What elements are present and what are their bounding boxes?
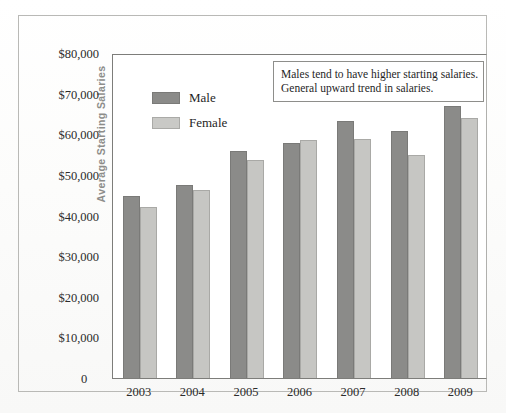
- y-axis-tick-label: $40,000: [37, 209, 99, 224]
- annotation-line-1: Males tend to have higher starting salar…: [281, 67, 476, 81]
- y-axis-tick-label: $60,000: [37, 128, 99, 143]
- x-axis-tick-label: 2003: [111, 385, 167, 400]
- bar-male[interactable]: [391, 131, 408, 378]
- legend-item-female[interactable]: Female: [152, 115, 227, 131]
- bar-female[interactable]: [354, 139, 371, 378]
- bar-female[interactable]: [461, 118, 478, 378]
- chart-page: Average Starting Salaries $10,000$20,000…: [0, 0, 506, 413]
- x-axis-tick-label: 2008: [379, 385, 435, 400]
- x-axis-tick-label: 2007: [325, 385, 381, 400]
- x-axis-tick-label: 2006: [272, 385, 328, 400]
- bar-male[interactable]: [444, 106, 461, 378]
- bar-female[interactable]: [300, 140, 317, 378]
- x-axis-tick-label: 2004: [164, 385, 220, 400]
- chart-legend: Male Female: [152, 90, 227, 131]
- legend-label-female: Female: [189, 115, 227, 131]
- bar-male[interactable]: [283, 143, 300, 378]
- y-axis-tick-label: $10,000: [37, 331, 99, 346]
- legend-label-male: Male: [189, 90, 216, 106]
- y-axis-tick-label: $30,000: [37, 250, 99, 265]
- annotation-textbox: Males tend to have higher starting salar…: [273, 61, 484, 102]
- y-axis-tick-label: $50,000: [37, 168, 99, 183]
- y-axis-zero-label: 0: [81, 372, 87, 387]
- bar-female[interactable]: [193, 190, 210, 379]
- bar-male[interactable]: [176, 185, 193, 378]
- y-axis-tick-label: $70,000: [37, 87, 99, 102]
- bar-female[interactable]: [247, 160, 264, 378]
- bar-male[interactable]: [230, 151, 247, 378]
- bar-female[interactable]: [140, 207, 157, 378]
- bar-group: [220, 53, 274, 378]
- annotation-line-2: General upward trend in salaries.: [281, 81, 476, 95]
- x-axis-tick-label: 2005: [218, 385, 274, 400]
- bar-female[interactable]: [408, 155, 425, 378]
- y-axis-tick-label: $80,000: [37, 47, 99, 62]
- bar-male[interactable]: [337, 121, 354, 378]
- legend-item-male[interactable]: Male: [152, 90, 227, 106]
- x-axis-tick-label: 2009: [432, 385, 488, 400]
- y-axis-tick-label: $20,000: [37, 290, 99, 305]
- bar-male[interactable]: [123, 196, 140, 378]
- legend-swatch-female-icon: [152, 117, 180, 129]
- legend-swatch-male-icon: [152, 92, 180, 104]
- chart-outer-frame: Average Starting Salaries $10,000$20,000…: [18, 15, 487, 392]
